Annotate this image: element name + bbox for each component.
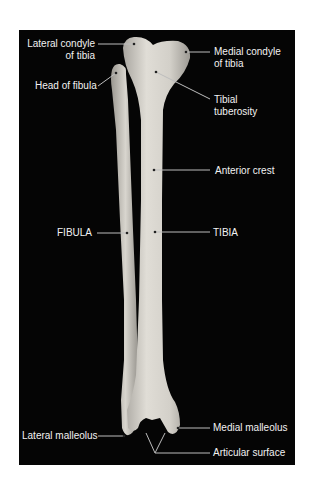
label-lateral-malleolus: Lateral malleolus <box>22 430 98 442</box>
label-lateral-condyle: Lateral condyle of tibia <box>22 38 95 62</box>
label-tibia: TIBIA <box>213 227 238 239</box>
label-anterior-crest: Anterior crest <box>215 165 274 177</box>
label-fibula: FIBULA <box>57 227 92 239</box>
label-tibial-tuberosity-line1: Tibial <box>214 94 257 106</box>
label-lateral-condyle-line1: Lateral condyle <box>22 38 95 50</box>
label-medial-condyle: Medial condyle of tibia <box>214 46 281 70</box>
label-head-of-fibula: Head of fibula <box>35 80 97 92</box>
label-lateral-condyle-line2: of tibia <box>22 50 95 62</box>
leader-articular-surface-v <box>146 433 165 453</box>
label-tibial-tuberosity: Tibial tuberosity <box>214 94 257 118</box>
label-medial-condyle-line2: of tibia <box>214 58 281 70</box>
tibia-fibula-illustration <box>0 0 312 487</box>
label-articular-surface: Articular surface <box>213 447 285 459</box>
label-tibial-tuberosity-line2: tuberosity <box>214 106 257 118</box>
label-medial-malleolus: Medial malleolus <box>213 422 287 434</box>
label-medial-condyle-line1: Medial condyle <box>214 46 281 58</box>
